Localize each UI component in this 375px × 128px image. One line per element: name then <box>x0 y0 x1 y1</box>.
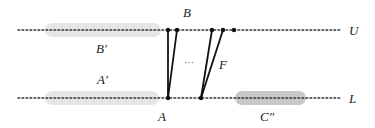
label-a: A <box>157 109 166 124</box>
upper-vertex <box>232 28 236 32</box>
lower-vertex <box>199 96 203 100</box>
edge-a-2 <box>168 30 177 98</box>
label-u: U <box>349 23 360 38</box>
label-b: B <box>183 5 191 20</box>
label-a-prime: A′ <box>96 72 108 87</box>
label-b-prime: B′ <box>96 41 107 56</box>
upper-vertex <box>210 28 214 32</box>
edge-f-1 <box>201 30 212 98</box>
label-c-double-prime: C″ <box>260 109 275 124</box>
label-f: F <box>218 57 228 72</box>
label-l: L <box>348 91 356 106</box>
upper-vertex <box>221 28 225 32</box>
upper-vertex <box>166 28 170 32</box>
lower-vertex-a <box>166 96 170 100</box>
upper-vertex <box>175 28 179 32</box>
label-ellipsis: ··· <box>184 57 194 68</box>
diagram-canvas: B B′ A′ A F C″ ··· U L <box>0 0 375 128</box>
